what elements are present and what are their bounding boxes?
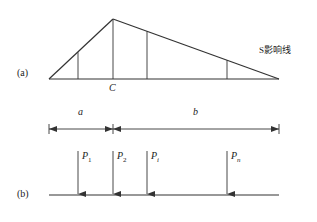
part-b-label: (b) <box>17 188 29 200</box>
svg-text:P1: P1 <box>81 150 92 164</box>
part-a-label: (a) <box>17 67 28 79</box>
svg-text:Pn: Pn <box>230 150 241 164</box>
svg-text:P2: P2 <box>116 150 127 164</box>
dimension-a-label: a <box>78 106 83 117</box>
load-pi: Pi <box>147 150 159 194</box>
load-pn: Pn <box>227 150 241 194</box>
load-p2: P2 <box>113 150 127 194</box>
right-slope <box>113 19 279 79</box>
load-p1: P1 <box>78 150 92 194</box>
dimension-line <box>49 124 279 134</box>
left-slope <box>49 19 113 79</box>
svg-text:Pi: Pi <box>150 150 159 164</box>
influence-line-label: S影响线 <box>259 44 291 55</box>
influence-line-triangle <box>49 19 279 79</box>
influence-line-diagram: (a) C S影响线 a b (b) P1 P2 Pi Pn <box>0 0 317 222</box>
point-c-label: C <box>109 82 116 93</box>
dimension-b-label: b <box>193 106 198 117</box>
